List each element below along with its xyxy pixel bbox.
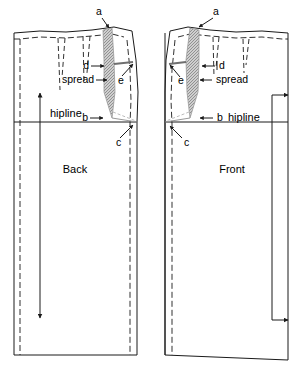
front-leader-a xyxy=(199,18,213,27)
back-label-b: b xyxy=(82,111,88,123)
front-label-b: b xyxy=(217,111,223,123)
front-callout-a: a xyxy=(199,5,219,27)
back-label-spread: spread xyxy=(62,73,94,85)
back-waist-edge xyxy=(14,27,132,33)
front-piece: a d spread e b c hipline Front xyxy=(165,5,288,360)
front-piece-label: Front xyxy=(219,163,245,175)
back-hipline-label: hipline xyxy=(50,107,82,119)
pattern-drawing-canvas: a d spread e b c hipline Back xyxy=(0,0,303,374)
front-hipline-label: hipline xyxy=(228,111,260,123)
back-leader-a xyxy=(102,18,109,28)
pattern-diagram: a d spread e b c hipline Back xyxy=(0,0,303,374)
back-piece: a d spread e b c hipline Back xyxy=(14,5,138,355)
front-label-spread: spread xyxy=(216,73,248,85)
front-label-a: a xyxy=(213,5,219,17)
back-label-a: a xyxy=(96,5,102,17)
front-waist-edge xyxy=(170,27,288,33)
back-label-d: d xyxy=(83,59,89,71)
front-label-c: c xyxy=(184,136,189,148)
back-label-e: e xyxy=(118,74,124,86)
front-label-d: d xyxy=(219,59,225,71)
back-piece-label: Back xyxy=(63,163,88,175)
back-callout-a: a xyxy=(96,5,109,28)
